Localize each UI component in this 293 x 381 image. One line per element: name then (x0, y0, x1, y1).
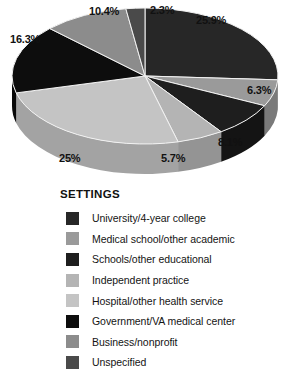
legend-item-label: University/4-year college (92, 212, 206, 224)
slice-percentage-label: 5.7% (161, 152, 185, 164)
legend-color-swatch (66, 356, 79, 369)
legend-item-label: Schools/other educational (92, 253, 212, 265)
legend-color-swatch (66, 253, 79, 266)
legend-item-label: Independent practice (92, 274, 189, 286)
legend-item: Medical school/other academic (66, 229, 291, 250)
legend-color-swatch (66, 232, 79, 245)
legend-item: University/4-year college (66, 208, 291, 229)
settings-pie-chart-figure: 25.9%6.3%8.1%5.7%25%16.3%10.4%2.3% SETTI… (0, 0, 293, 381)
slice-percentage-label: 25.9% (196, 14, 226, 26)
legend-item-label: Unspecified (92, 356, 146, 368)
pie-top-slices (12, 8, 278, 144)
slice-percentage-label: 25% (59, 152, 80, 164)
legend-item: Schools/other educational (66, 249, 291, 270)
legend-item-label: Business/nonprofit (92, 336, 177, 348)
legend-item: Independent practice (66, 270, 291, 291)
legend-item: Unspecified (66, 352, 291, 373)
chart-legend: SETTINGS University/4-year collegeMedica… (0, 182, 293, 381)
slice-percentage-label: 6.3% (247, 84, 271, 96)
legend-color-swatch (66, 315, 79, 328)
legend-item: Business/nonprofit (66, 332, 291, 353)
legend-item: Hospital/other health service (66, 290, 291, 311)
legend-item: Government/VA medical center (66, 311, 291, 332)
legend-item-label: Government/VA medical center (92, 315, 235, 327)
legend-color-swatch (66, 335, 79, 348)
legend-item-label: Medical school/other academic (92, 233, 235, 245)
legend-item-list: University/4-year collegeMedical school/… (66, 208, 291, 373)
legend-item-label: Hospital/other health service (92, 295, 223, 307)
slice-percentage-label: 16.3% (10, 33, 40, 45)
legend-color-swatch (66, 212, 79, 225)
pie-chart-plot-area: 25.9%6.3%8.1%5.7%25%16.3%10.4%2.3% (0, 0, 293, 182)
legend-color-swatch (66, 274, 79, 287)
slice-percentage-label: 10.4% (89, 5, 119, 17)
legend-color-swatch (66, 294, 79, 307)
slice-percentage-label: 8.1% (218, 136, 242, 148)
slice-percentage-label: 2.3% (150, 4, 174, 16)
legend-title: SETTINGS (60, 188, 120, 200)
